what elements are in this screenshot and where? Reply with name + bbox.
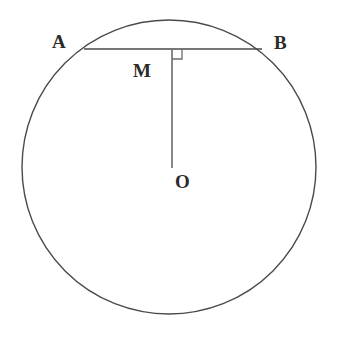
geometry-figure: A B M O: [0, 0, 340, 343]
circle-outline: [22, 20, 316, 314]
point-label-a: A: [52, 32, 66, 51]
point-label-o: O: [175, 172, 190, 191]
geometry-canvas: [0, 0, 340, 343]
point-label-b: B: [274, 33, 287, 52]
right-angle-marker-icon: [172, 49, 182, 59]
point-label-m: M: [133, 61, 151, 80]
